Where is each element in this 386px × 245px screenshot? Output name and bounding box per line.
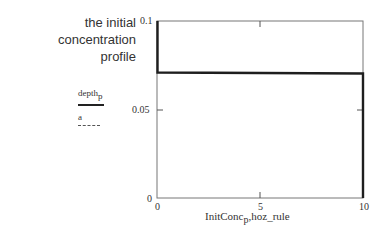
- plot-area: [0, 0, 386, 245]
- y-tick-label-0.1: 0.1: [140, 15, 153, 26]
- series-depth-line: [158, 21, 364, 198]
- y-tick-label-0.05: 0.05: [132, 104, 150, 115]
- x-tick-label-10: 10: [359, 201, 369, 212]
- x-tick-label-0: 0: [155, 201, 160, 212]
- x-axis-label: InitConcp,hoz_rule: [205, 210, 290, 225]
- legend-solid-line-icon: [78, 104, 104, 106]
- legend-a-label: a: [78, 112, 118, 122]
- legend: depthp a: [78, 88, 118, 129]
- legend-depth-label: depthp: [78, 88, 118, 101]
- legend-dashed-line-icon: [78, 125, 100, 126]
- plot-frame: [157, 21, 363, 198]
- y-tick-label-0: 0: [147, 193, 152, 204]
